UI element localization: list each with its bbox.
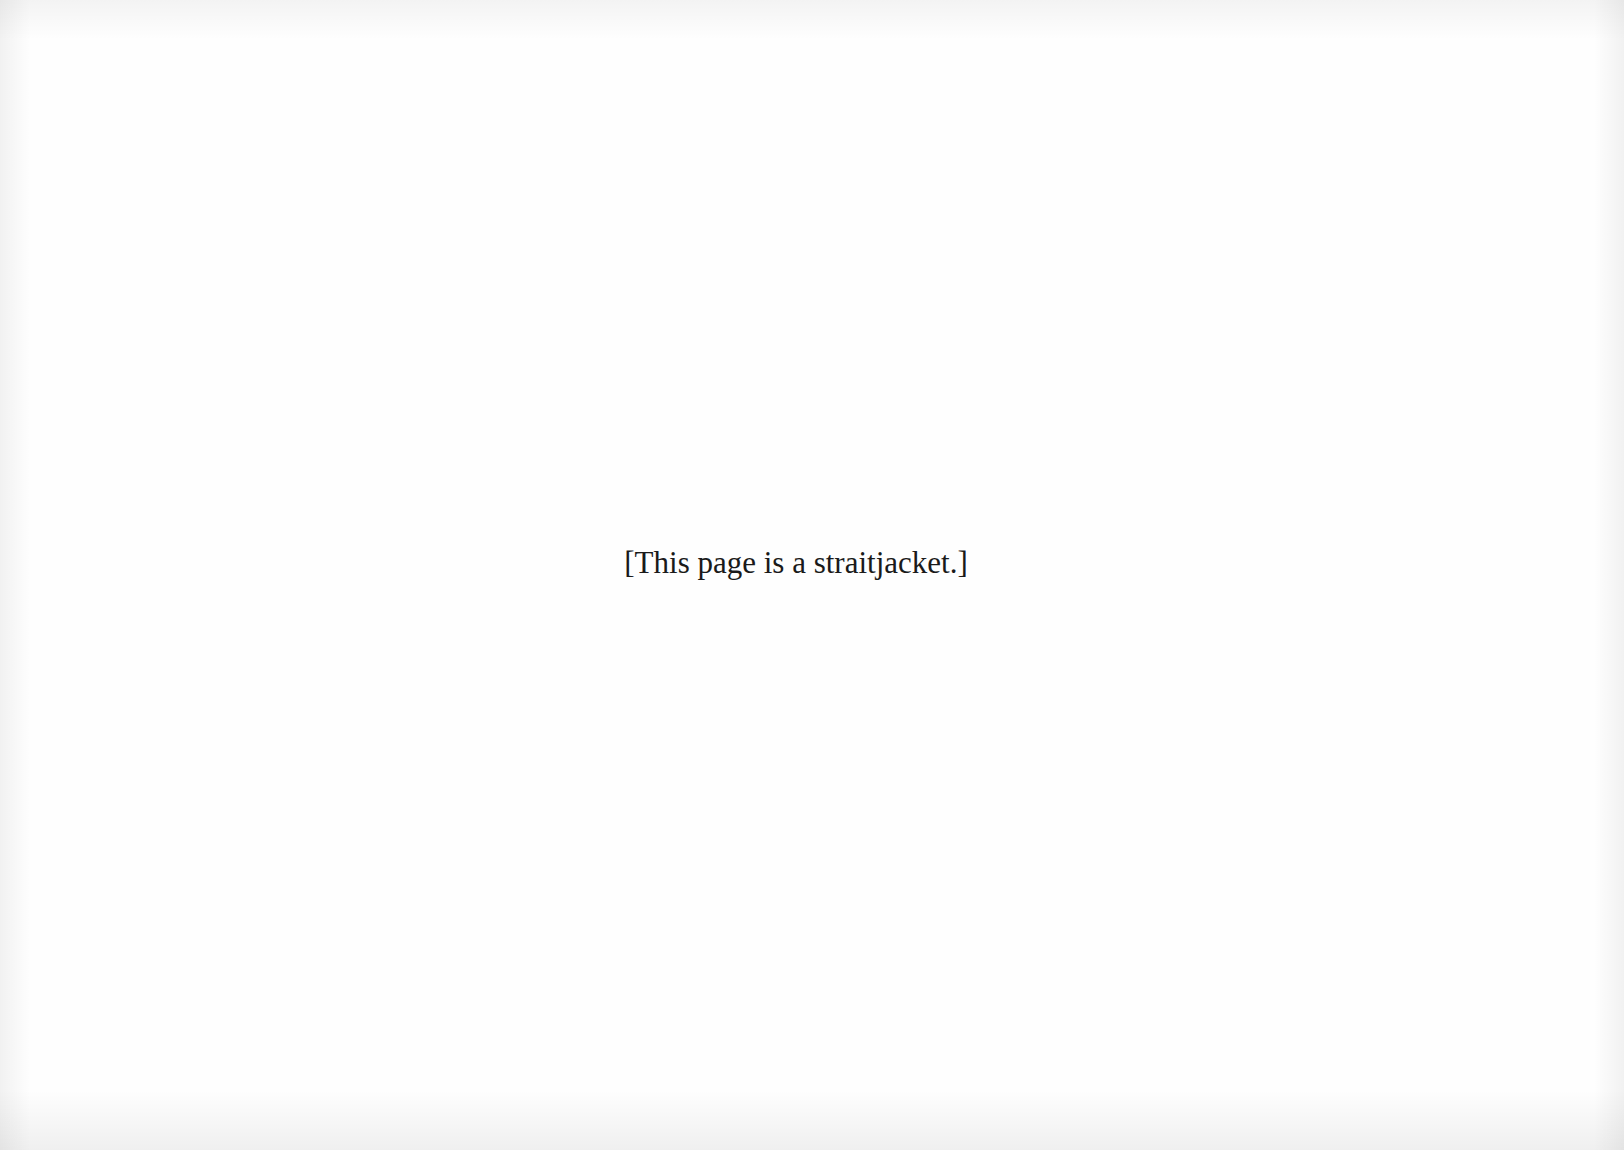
document-page: [This page is a straitjacket.] [0,0,1624,1150]
page-note-text: [This page is a straitjacket.] [0,543,1624,583]
